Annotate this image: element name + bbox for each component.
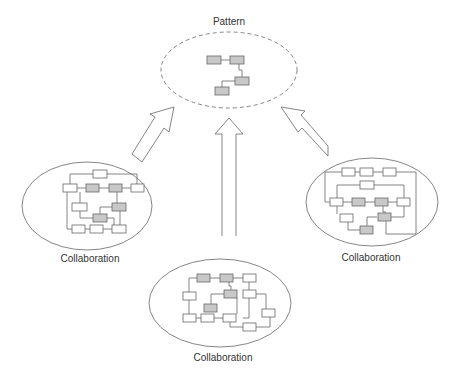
arrow-center-icon — [215, 118, 243, 236]
collaboration-bottom-label: Collaboration — [183, 352, 263, 363]
pattern-network — [207, 56, 249, 95]
collaboration-left-label: Collaboration — [50, 253, 130, 264]
arrow-right-icon — [281, 107, 328, 156]
bottom-network — [183, 274, 275, 331]
arrow-left-icon — [132, 107, 174, 162]
left-network — [63, 170, 144, 233]
arrows — [132, 107, 328, 236]
pattern-label: Pattern — [199, 16, 259, 27]
pattern-ellipse — [161, 32, 297, 108]
collaboration-right-label: Collaboration — [331, 252, 411, 263]
diagram-canvas — [0, 0, 474, 380]
right-network — [325, 168, 416, 234]
collaboration-bottom-ellipse — [149, 259, 291, 347]
